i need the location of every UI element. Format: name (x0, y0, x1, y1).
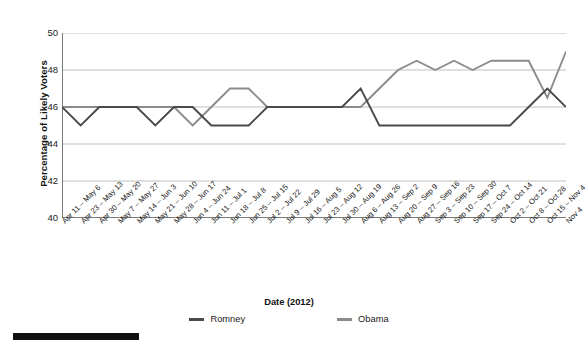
series-line-obama (62, 52, 566, 126)
legend-label: Obama (358, 314, 389, 324)
y-axis-tick-label: 46 (32, 102, 58, 112)
x-axis-title: Date (2012) (0, 297, 578, 307)
legend-swatch-icon (189, 318, 204, 321)
legend-swatch-icon (337, 318, 352, 321)
y-axis-tick-label: 48 (32, 65, 58, 75)
legend-item-romney[interactable]: Romney (189, 314, 245, 324)
y-axis-tick-label: 44 (32, 139, 58, 149)
y-axis-tick-labels: 404244464850 (28, 0, 58, 346)
legend-label: Romney (210, 314, 245, 324)
chart-legend: RomneyObama (0, 314, 578, 324)
y-axis-tick-label: 50 (32, 28, 58, 38)
y-axis-tick-label: 42 (32, 176, 58, 186)
data-series-layer (62, 52, 566, 126)
legend-item-obama[interactable]: Obama (337, 314, 389, 324)
x-axis-tick-labels: Apr 11 – May 6Apr 23 – May 13Apr 30 – Ma… (62, 219, 582, 301)
bottom-black-bar (13, 333, 139, 340)
y-axis-tick-label: 40 (32, 213, 58, 223)
